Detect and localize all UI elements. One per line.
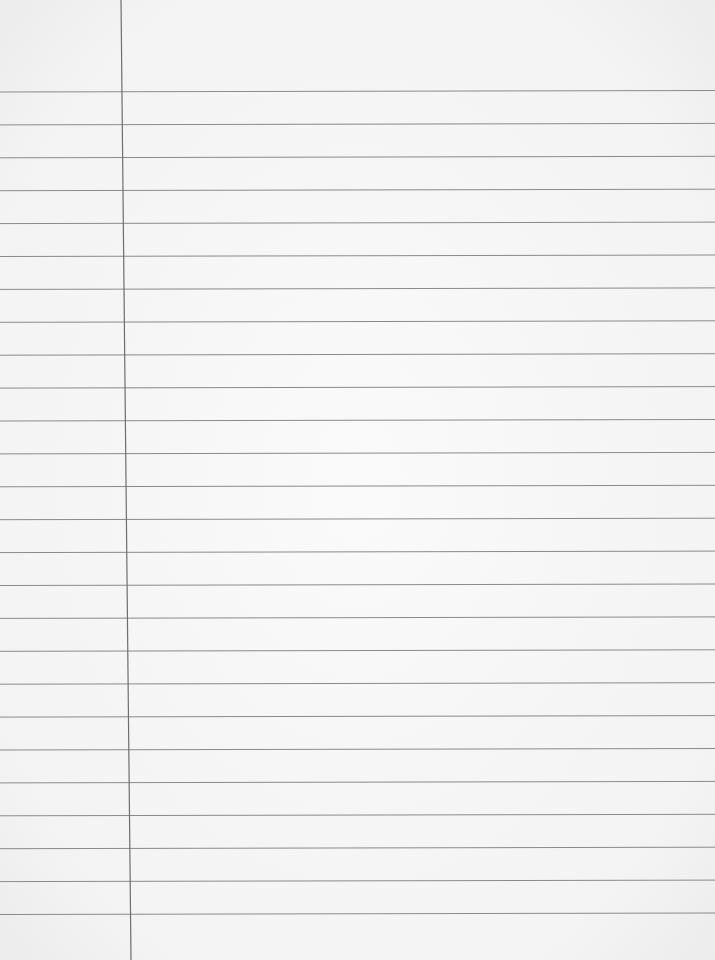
ruled-line — [0, 913, 715, 915]
ruled-line — [0, 420, 715, 422]
ruled-line — [0, 321, 715, 323]
ruled-line — [0, 123, 715, 125]
ruled-line — [0, 749, 715, 751]
ruled-line — [0, 847, 715, 849]
ruled-line — [0, 189, 715, 191]
ruled-line — [0, 584, 715, 586]
ruled-line — [0, 452, 715, 454]
ruled-line — [0, 387, 715, 389]
ruled-line — [0, 156, 715, 158]
ruled-line — [0, 650, 715, 652]
ruled-line — [0, 222, 715, 224]
ruled-line — [0, 91, 715, 93]
ruled-line — [0, 518, 715, 520]
ruled-lines — [0, 0, 715, 960]
ruled-line — [0, 814, 715, 816]
ruled-line — [0, 551, 715, 553]
ruled-line — [0, 354, 715, 356]
ruled-line — [0, 288, 715, 290]
notebook-paper — [0, 0, 715, 960]
ruled-line — [0, 617, 715, 619]
ruled-line — [0, 880, 715, 882]
ruled-line — [0, 781, 715, 783]
ruled-line — [0, 255, 715, 257]
ruled-line — [0, 485, 715, 487]
ruled-line — [0, 716, 715, 718]
ruled-line — [0, 683, 715, 685]
